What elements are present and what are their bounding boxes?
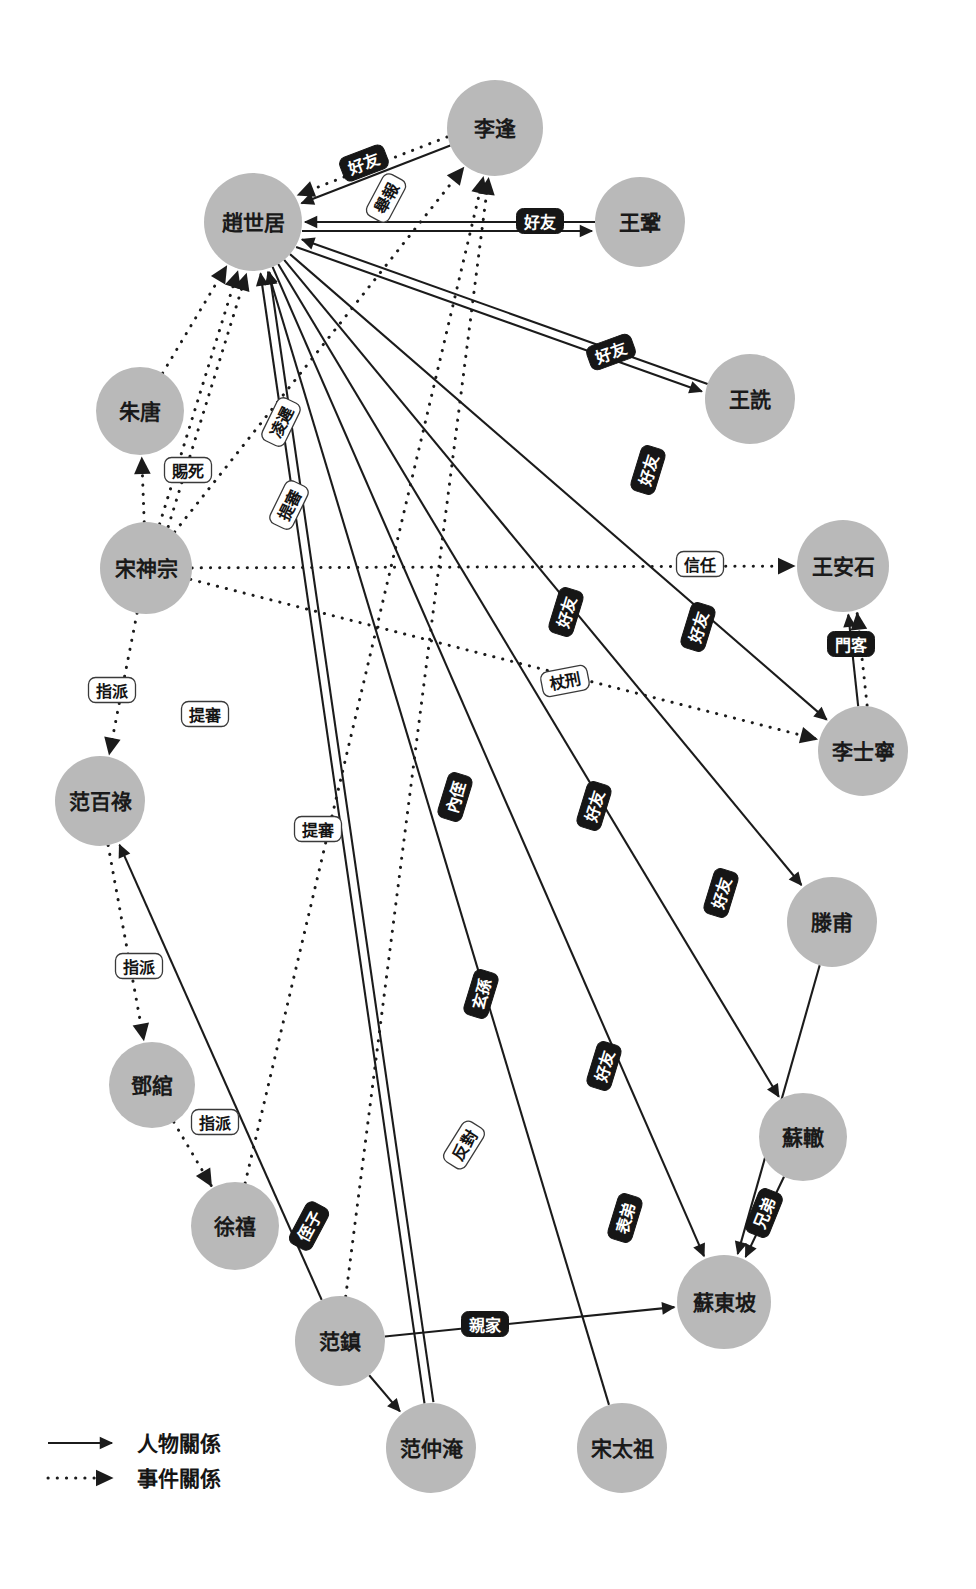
edge-label-text: 指派: [96, 682, 129, 701]
edge-label-songshenzong-wanganshi: 信任: [677, 552, 724, 577]
node-label: 朱唐: [119, 400, 161, 424]
edge-label-text: 親家: [469, 1316, 502, 1335]
edge-label-layer: 好友舉報好友好友賜死凌遲提審信任指派提審杖刑指派指派提審門客好友好友好友好友好友…: [89, 143, 875, 1337]
edge-label-dengguan-xuxi: 指派: [192, 1110, 239, 1135]
edge-zhaoshiju-to-lishining: [290, 254, 827, 719]
node-zhaoshiju[interactable]: 趙世居: [204, 173, 302, 271]
edge-zhaoshiju-to-suzhe: [278, 264, 779, 1097]
edge-lishining-to-wanganshi: [857, 614, 867, 706]
legend-person-label: 人物關係: [137, 1432, 221, 1456]
node-label: 鄧綰: [131, 1074, 173, 1098]
edge-label-songshenzong-fanbailu: 指派: [89, 678, 136, 703]
node-layer: 李逢趙世居王鞏朱唐王詵宋神宗王安石李士寧范百祿滕甫鄧綰蘇轍徐禧范鎮蘇東坡范仲淹宋…: [55, 80, 908, 1493]
edge-label-fanzhen-lifeng: 反對: [441, 1118, 487, 1171]
node-dengguan[interactable]: 鄧綰: [109, 1042, 195, 1128]
edge-zhaoshiju-to-sudongpo: [273, 267, 704, 1256]
node-songtaizu[interactable]: 宋太祖: [577, 1403, 667, 1493]
node-label: 宋太祖: [591, 1437, 654, 1461]
node-label: 蘇東坡: [692, 1291, 756, 1315]
edge-label-wanggong-zhaoshiju: 好友: [517, 209, 564, 234]
node-label: 李逢: [473, 117, 516, 141]
node-label: 范鎮: [319, 1330, 361, 1354]
legend: 人物關係 事件關係: [48, 1432, 221, 1491]
node-fanzhen[interactable]: 范鎮: [295, 1296, 385, 1386]
node-songshenzong[interactable]: 宋神宗: [100, 522, 192, 614]
edge-label-fanzhongyan-zhaoshiju: 玄孫: [462, 968, 500, 1020]
edge-label-lishining-wanganshi: 門客: [828, 632, 875, 657]
node-fanzhongyan[interactable]: 范仲淹: [386, 1403, 476, 1493]
node-xuxi[interactable]: 徐禧: [191, 1182, 279, 1270]
node-label: 范百祿: [69, 790, 132, 814]
node-label: 王鞏: [619, 211, 661, 235]
node-lishining[interactable]: 李士寧: [818, 706, 908, 796]
node-wanganshi[interactable]: 王安石: [797, 520, 889, 612]
edge-label-text: 提審: [189, 706, 222, 725]
node-label: 趙世居: [222, 211, 285, 235]
edge-label-fanzhongyan-zhaoshiju: 內侄: [436, 771, 474, 823]
node-label: 王安石: [812, 555, 875, 579]
node-fanbailu[interactable]: 范百祿: [55, 756, 145, 846]
edge-label-zhaoshiju-lishining: 好友: [679, 601, 717, 653]
legend-event-label: 事件關係: [137, 1467, 221, 1491]
edge-label-zhaoshiju-suzhe: 好友: [585, 1040, 623, 1092]
edge-zhaoshiju-to-wangshen: [296, 247, 702, 392]
edge-label-text: 賜死: [171, 462, 204, 481]
edge-label-text: 指派: [123, 958, 156, 977]
node-zhutang[interactable]: 朱唐: [96, 367, 184, 455]
graph-canvas: 李逢趙世居王鞏朱唐王詵宋神宗王安石李士寧范百祿滕甫鄧綰蘇轍徐禧范鎮蘇東坡范仲淹宋…: [0, 0, 976, 1589]
edge-label-fanzhen-fanbailu: 侄子: [287, 1199, 331, 1252]
edge-zhaoshiju-to-tengfu: [284, 260, 801, 885]
edge-label-songshenzong-zhutang: 賜死: [165, 458, 212, 483]
node-label: 李士寧: [831, 740, 895, 764]
edge-label-lifeng-zhaoshiju: 舉報: [364, 171, 408, 224]
edge-label-text: 指派: [199, 1114, 232, 1133]
node-label: 宋神宗: [115, 557, 178, 581]
edge-label-zhaoshiju-tengfu: 好友: [575, 780, 613, 832]
edge-label-songtaizu-zhaoshiju: 表弟: [606, 1192, 644, 1244]
node-label: 徐禧: [213, 1215, 256, 1239]
edge-zhutang-to-zhaoshiju: [163, 267, 227, 374]
edge-label-songshenzong-zhaoshiju: 凌遲: [259, 395, 302, 448]
edge-label-zhaoshiju-sudongpo: 好友: [702, 867, 740, 919]
edge-label-xuxi-lifeng: 提審: [295, 817, 342, 842]
edge-label-text: 門客: [835, 636, 868, 655]
edge-label-zhaoshiju-wangshen: 好友: [629, 444, 667, 496]
node-sudongpo[interactable]: 蘇東坡: [677, 1255, 771, 1349]
edge-label-fanzhen-sudongpo: 親家: [462, 1312, 509, 1337]
edge-label-fanbailu-dengguan: 指派: [116, 954, 163, 979]
node-lifeng[interactable]: 李逢: [447, 80, 543, 176]
edge-songshenzong-to-lishining: [191, 579, 817, 739]
node-tengfu[interactable]: 滕甫: [787, 877, 877, 967]
node-label: 蘇轍: [781, 1126, 825, 1150]
node-suzhe[interactable]: 蘇轍: [759, 1093, 847, 1181]
edge-label-zhaoshiju-wanggong: 好友: [547, 586, 585, 638]
edge-xuxi-to-lifeng: [245, 178, 483, 1184]
edge-songshenzong-to-zhutang: [142, 458, 144, 522]
node-label: 王詵: [729, 388, 771, 412]
edge-lishining-to-wanganshi: [848, 615, 858, 707]
edge-fanzhen-to-fanzhongyan: [369, 1375, 400, 1411]
edge-label-text: 好友: [523, 213, 557, 232]
node-label: 范仲淹: [400, 1437, 464, 1461]
node-label: 滕甫: [811, 911, 853, 935]
edge-label-songshenzong-lifeng: 提審: [182, 702, 229, 727]
relationship-network-diagram: 李逢趙世居王鞏朱唐王詵宋神宗王安石李士寧范百祿滕甫鄧綰蘇轍徐禧范鎮蘇東坡范仲淹宋…: [0, 0, 976, 1589]
edge-label-text: 信任: [684, 556, 716, 575]
edge-label-text: 提審: [302, 821, 335, 840]
node-wangshen[interactable]: 王詵: [705, 354, 795, 444]
edge-fanzhen-to-sudongpo: [385, 1307, 675, 1336]
node-wanggong[interactable]: 王鞏: [595, 177, 685, 267]
edge-fanbailu-to-dengguan: [108, 845, 144, 1040]
